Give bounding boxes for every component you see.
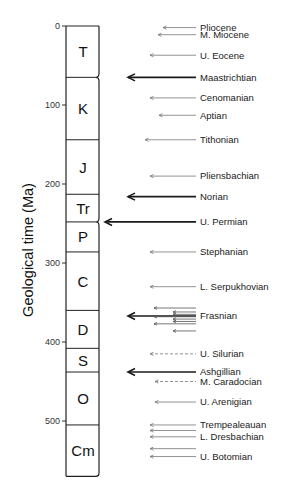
event-arrow-stephanian: Stephanian [150, 246, 248, 257]
frasnian-cluster [154, 307, 196, 333]
event-label: Norian [200, 191, 228, 202]
y-axis-label: Geological time (Ma) [20, 183, 36, 317]
period-label-j: J [79, 159, 87, 176]
event-arrow-aptian: Aptian [159, 110, 227, 121]
event-arrow-u-arenigian: U. Arenigian [155, 396, 252, 407]
event-label: U. Botomian [200, 451, 252, 462]
event-arrow-u-silurian: U. Silurian [150, 348, 244, 359]
event-label: U. Arenigian [200, 396, 252, 407]
period-label-c: C [78, 273, 89, 290]
event-label: U. Permian [200, 216, 248, 227]
event-arrow-cenomanian: Cenomanian [150, 92, 254, 103]
event-label: Cenomanian [200, 92, 254, 103]
y-tick-label: 500 [45, 416, 60, 426]
event-label: Trempealeauan [200, 419, 266, 430]
period-label-t: T [78, 43, 87, 60]
event-arrow-u-eocene: U. Eocene [150, 50, 244, 61]
event-arrow-unlabeled [150, 429, 196, 432]
event-label: Tithonian [200, 134, 239, 145]
event-arrow-norian: Norian [128, 191, 228, 202]
event-label: M. Miocene [200, 29, 249, 40]
column-bottom-edge [66, 473, 99, 476]
event-arrow-maastrichtian: Maastrichtian [128, 72, 257, 83]
event-arrow-tithonian: Tithonian [145, 134, 239, 145]
period-label-d: D [78, 321, 89, 338]
period-label-cm: Cm [71, 442, 94, 459]
event-label: L. Dresbachian [200, 431, 264, 442]
event-arrow-m-caradocian: M. Caradocian [155, 376, 262, 387]
event-arrow-m-miocene: M. Miocene [158, 29, 249, 40]
y-tick-label: 0 [55, 21, 60, 31]
event-arrow-unlabeled [150, 447, 196, 450]
geological-timescale-figure: 0100200300400500 TKJTrPCDSOCm PlioceneM.… [0, 0, 295, 497]
event-label: M. Caradocian [200, 376, 262, 387]
y-tick-label: 200 [45, 179, 60, 189]
event-arrow-u-permian: U. Permian [105, 216, 248, 227]
period-column: TKJTrPCDSOCm [66, 26, 99, 476]
period-label-tr: Tr [76, 200, 90, 217]
event-label: L. Serpukhovian [200, 281, 269, 292]
column-right-edge [96, 26, 99, 473]
event-arrow-l-dresbachian: L. Dresbachian [150, 431, 264, 442]
period-label-p: P [78, 228, 88, 245]
event-label: Aptian [200, 110, 227, 121]
period-label-o: O [77, 390, 89, 407]
period-label-k: K [78, 100, 88, 117]
extinction-events: PlioceneM. MioceneU. EoceneMaastrichtian… [105, 22, 269, 462]
y-axis: 0100200300400500 [45, 21, 66, 426]
event-label: Frasnian [200, 310, 237, 321]
y-tick-label: 100 [45, 100, 60, 110]
event-arrow-trempealeauan: Trempealeauan [150, 419, 266, 430]
y-tick-label: 400 [45, 337, 60, 347]
event-label: U. Eocene [200, 50, 244, 61]
event-arrow-u-botomian: U. Botomian [150, 451, 252, 462]
event-label: Maastrichtian [200, 72, 257, 83]
period-label-s: S [78, 352, 88, 369]
event-arrow-pliensbachian: Pliensbachian [150, 170, 259, 181]
event-label: Stephanian [200, 246, 248, 257]
event-label: U. Silurian [200, 348, 244, 359]
y-tick-label: 300 [45, 258, 60, 268]
event-arrow-l-serpukhovian: L. Serpukhovian [150, 281, 269, 292]
event-label: Pliensbachian [200, 170, 259, 181]
